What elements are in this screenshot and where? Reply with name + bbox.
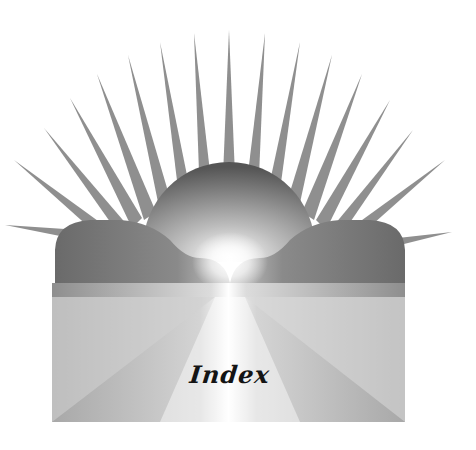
index-title: Index — [0, 360, 462, 389]
horizon-band — [52, 283, 405, 297]
